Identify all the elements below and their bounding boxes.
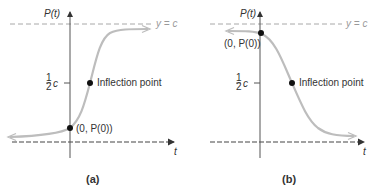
asymptote-label: y = c (155, 18, 177, 29)
intercept-label: (0, P(0)) (76, 123, 113, 134)
inflection-point (289, 80, 295, 86)
intercept-point (258, 30, 264, 36)
intercept-point (67, 125, 73, 131)
caption-b: (b) (282, 173, 296, 185)
t-axis-label: t (363, 146, 367, 157)
panel-b: y = c t P(t) 1 2 c (0, P(0)) Inflection … (210, 8, 367, 185)
svg-text:2: 2 (236, 81, 242, 92)
t-axis-label: t (174, 146, 178, 157)
intercept-label: (0, P(0)) (224, 38, 261, 49)
p-axis-label: P(t) (240, 8, 256, 19)
inflection-point (87, 80, 93, 86)
inflection-label: Inflection point (299, 77, 364, 88)
panel-a: y = c t P(t) 1 2 c Inflection point (0, … (8, 8, 178, 185)
half-c-label: c (53, 78, 58, 89)
asymptote-label: y = c (345, 18, 367, 29)
logistic-diagrams: y = c t P(t) 1 2 c Inflection point (0, … (0, 0, 377, 196)
inflection-label: Inflection point (97, 77, 162, 88)
svg-text:2: 2 (46, 81, 52, 92)
caption-a: (a) (86, 173, 100, 185)
half-c-label: c (243, 78, 248, 89)
p-axis-label: P(t) (44, 8, 60, 19)
